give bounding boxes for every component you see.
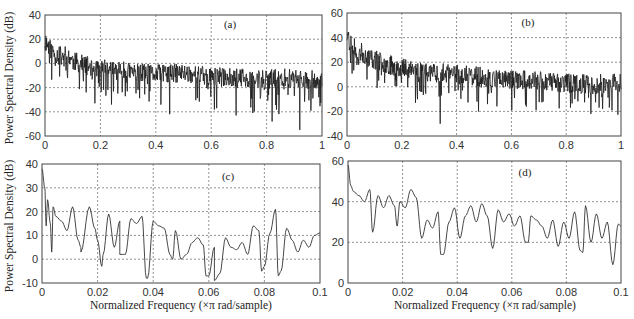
x-tick-label: 0.2	[93, 139, 108, 151]
x-tick-label: 0.04	[446, 286, 467, 298]
psd-trace-d	[348, 165, 621, 265]
y-tick-label: 60	[332, 155, 344, 167]
y-tick-label: 20	[331, 56, 343, 68]
y-tick-label: 40	[331, 32, 343, 44]
y-tick-label: 20	[332, 236, 344, 248]
chart-panel-a: 00.20.40.60.81-60-40-2002040(a)	[25, 9, 325, 151]
x-tick-label: 0.02	[392, 286, 413, 298]
y-tick-label: -60	[25, 130, 41, 142]
grid-lines	[42, 164, 320, 283]
x-tick-labels: 00.20.40.60.81	[344, 139, 624, 151]
plot-frame	[347, 13, 621, 136]
x-tick-label: 0.08	[556, 286, 577, 298]
y-tick-label: 40	[29, 9, 41, 21]
x-axis-label-d: Normalized Frequency (×π rad/sample)	[394, 299, 576, 312]
psd-trace-c	[42, 169, 320, 281]
x-tick-labels: 00.020.040.060.080.1	[345, 286, 629, 298]
x-tick-label: 0.8	[259, 139, 274, 151]
y-tick-label: 0	[337, 81, 343, 93]
y-tick-label: 0	[35, 57, 41, 69]
y-tick-label: 30	[26, 182, 38, 194]
y-tick-label: -40	[25, 106, 41, 118]
panel-title: (a)	[224, 18, 237, 31]
x-tick-label: 0.02	[87, 286, 108, 298]
y-tick-label: 10	[26, 229, 38, 241]
x-tick-label: 0.2	[394, 139, 409, 151]
y-tick-label: 40	[26, 158, 38, 170]
psd-trace-a	[45, 36, 322, 130]
panel-title: (d)	[519, 166, 532, 179]
plot-frame	[348, 161, 621, 283]
x-tick-label: 0.6	[504, 139, 519, 151]
y-tick-label: -20	[327, 105, 343, 117]
x-tick-label: 0.06	[501, 286, 522, 298]
x-tick-label: 0	[39, 286, 45, 298]
x-tick-label: 0.1	[312, 286, 327, 298]
x-tick-label: 0	[42, 139, 48, 151]
y-tick-labels: -40-200204060	[327, 7, 343, 142]
x-tick-label: 0.06	[198, 286, 219, 298]
x-tick-label: 1	[319, 139, 325, 151]
panel-title: (b)	[522, 16, 535, 29]
x-tick-label: 1	[618, 139, 624, 151]
plot-frame	[42, 164, 320, 283]
y-tick-label: 60	[331, 7, 343, 19]
psd-figure: 00.20.40.60.81-60-40-2002040(a) 00.20.40…	[0, 0, 634, 319]
y-tick-label: -10	[22, 277, 38, 289]
y-axis-label-bottom: Power Spectral Density (dB)	[3, 160, 16, 293]
x-tick-label: 0.6	[204, 139, 219, 151]
psd-trace-b	[347, 32, 621, 124]
y-tick-label: 0	[32, 253, 38, 265]
x-tick-label: 0.4	[449, 139, 464, 151]
y-tick-labels: -10010203040	[22, 158, 38, 289]
x-tick-label: 0.8	[559, 139, 574, 151]
x-tick-label: 0.4	[148, 139, 163, 151]
y-tick-label: -40	[327, 130, 343, 142]
grid-lines	[347, 13, 621, 136]
x-tick-label: 0.08	[254, 286, 275, 298]
x-tick-label: 0	[345, 286, 351, 298]
chart-panel-d: 00.020.040.060.080.10204060(d)	[332, 155, 629, 298]
x-tick-labels: 00.20.40.60.81	[42, 139, 325, 151]
y-tick-label: 20	[29, 33, 41, 45]
grid-lines	[348, 161, 621, 283]
y-tick-labels: -60-40-2002040	[25, 9, 41, 142]
x-tick-label: 0.1	[613, 286, 628, 298]
x-axis-label-c: Normalized Frequency (×π rad/sample)	[90, 299, 272, 312]
y-tick-label: 20	[26, 206, 38, 218]
y-tick-labels: 0204060	[332, 155, 344, 289]
y-tick-label: -20	[25, 82, 41, 94]
y-tick-label: 0	[338, 277, 344, 289]
chart-panel-b: 00.20.40.60.81-40-200204060(b)	[327, 7, 624, 151]
chart-panel-c: 00.020.040.060.080.1-10010203040(c)	[22, 158, 328, 298]
panel-title: (c)	[222, 170, 235, 183]
x-tick-label: 0	[344, 139, 350, 151]
x-tick-labels: 00.020.040.060.080.1	[39, 286, 328, 298]
y-axis-label-top: Power Spectral Density (dB)	[3, 12, 16, 145]
x-tick-label: 0.04	[142, 286, 163, 298]
y-tick-label: 40	[332, 196, 344, 208]
